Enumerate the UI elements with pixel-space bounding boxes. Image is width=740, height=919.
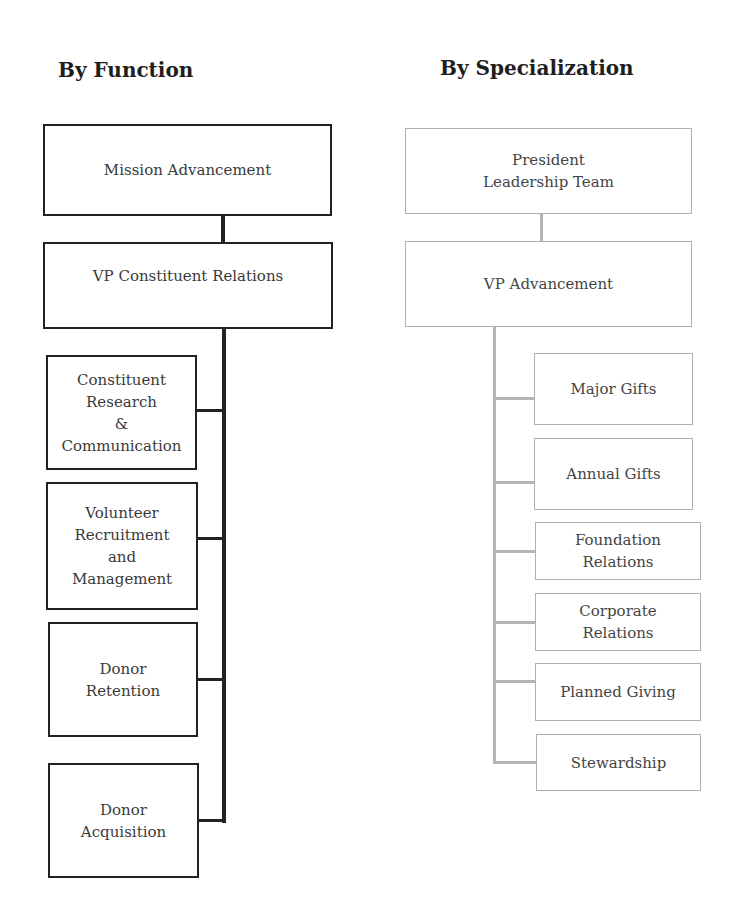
branch-line — [494, 621, 535, 624]
connector-root-vp — [540, 213, 543, 241]
org-box-annual-gifts: Annual Gifts — [534, 438, 693, 510]
org-box-stewardship: Stewardship — [536, 734, 701, 791]
org-box-foundation-relations: Foundation Relations — [535, 522, 701, 580]
branch-line — [197, 678, 224, 681]
right-chart-title: By Specialization — [440, 56, 634, 80]
box-label: President Leadership Team — [483, 149, 614, 193]
box-label: Planned Giving — [560, 681, 676, 703]
org-box-corporate-relations: Corporate Relations — [535, 593, 701, 651]
branch-line — [198, 819, 226, 822]
org-box-volunteer-recruitment: Volunteer Recruitment and Management — [46, 482, 198, 610]
org-box-planned-giving: Planned Giving — [535, 663, 701, 721]
left-chart-title: By Function — [58, 58, 193, 82]
org-box-mission-advancement: Mission Advancement — [43, 124, 332, 216]
branch-line — [494, 550, 535, 553]
trunk-line — [222, 328, 226, 823]
branch-line — [494, 397, 534, 400]
box-label: VP Constituent Relations — [93, 265, 284, 287]
box-label: Donor Retention — [86, 658, 160, 702]
branch-line — [494, 481, 534, 484]
org-box-vp-constituent-relations: VP Constituent Relations — [43, 242, 333, 329]
box-label: Major Gifts — [571, 378, 657, 400]
connector-root-vp — [221, 215, 225, 242]
box-label: Donor Acquisition — [81, 799, 166, 843]
box-label: Stewardship — [571, 752, 667, 774]
box-label: Volunteer Recruitment and Management — [72, 502, 172, 590]
org-box-president-leadership-team: President Leadership Team — [405, 128, 692, 214]
branch-line — [197, 537, 224, 540]
org-box-constituent-research: Constituent Research & Communication — [46, 355, 197, 470]
box-label: Constituent Research & Communication — [62, 369, 182, 457]
trunk-line — [493, 326, 496, 764]
org-box-vp-advancement: VP Advancement — [405, 241, 692, 327]
box-label: Mission Advancement — [104, 159, 271, 181]
branch-line — [494, 680, 535, 683]
box-label: Annual Gifts — [566, 463, 660, 485]
org-box-donor-acquisition: Donor Acquisition — [48, 763, 199, 878]
org-box-major-gifts: Major Gifts — [534, 353, 693, 425]
branch-line — [494, 761, 536, 764]
branch-line — [196, 409, 224, 412]
org-box-donor-retention: Donor Retention — [48, 622, 198, 737]
box-label: Corporate Relations — [579, 600, 656, 644]
box-label: Foundation Relations — [575, 529, 661, 573]
box-label: VP Advancement — [484, 273, 613, 295]
